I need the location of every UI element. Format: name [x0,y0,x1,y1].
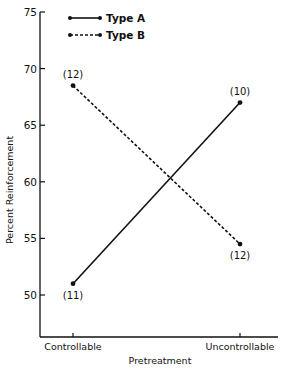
y-tick-label: 55 [24,232,37,244]
y-tick-label: 65 [24,119,37,131]
sample-size-label: (12) [63,69,84,80]
y-tick-label: 60 [24,176,37,188]
series-line-type-b [73,86,240,244]
sample-size-label: (10) [230,86,251,97]
y-tick-label: 75 [24,6,37,18]
legend-label: Type A [106,12,146,24]
x-tick-label: Controllable [44,341,101,352]
sample-size-label: (12) [230,250,251,261]
sample-size-label: (11) [63,290,84,301]
data-point [238,242,243,247]
legend: Type AType B [68,12,146,41]
x-tick-label: Uncontrollable [206,341,275,352]
legend-label: Type B [106,29,145,41]
legend-marker [68,33,72,37]
line-chart: 505560657075ControllableUncontrollable (… [0,0,290,375]
legend-marker [98,33,102,37]
data-point [71,281,76,286]
x-axis-label: Pretreatment [129,355,192,366]
series-line-type-a [73,103,240,284]
y-tick-label: 50 [24,289,37,301]
data-point [71,83,76,88]
series-group: (11)(10)(12)(12) [63,69,251,301]
y-tick-label: 70 [24,63,37,75]
y-axis-label: Percent Reinforcement [4,136,15,244]
legend-marker [98,16,102,20]
data-point [238,100,243,105]
legend-marker [68,16,72,20]
